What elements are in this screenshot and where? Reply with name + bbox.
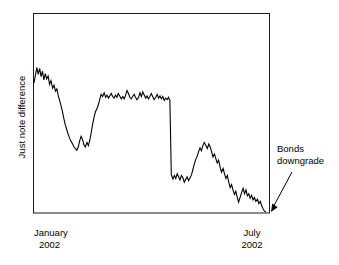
xtick-right-line1: July <box>244 227 261 238</box>
chart-figure: Bonds downgrade January 2002 July 2002 J… <box>0 0 339 265</box>
xtick-right-line2: 2002 <box>241 239 262 250</box>
y-axis-label: Just note difference <box>16 76 27 159</box>
annotation-bonds-line2: downgrade <box>277 155 324 166</box>
plot-frame <box>34 14 270 214</box>
annotation-bonds-line1: Bonds <box>277 143 304 154</box>
bonds-downgrade-arrow-icon <box>271 172 292 212</box>
chart-canvas: Bonds downgrade January 2002 July 2002 J… <box>0 0 339 265</box>
xtick-left-line2: 2002 <box>39 239 60 250</box>
xtick-left-line1: January <box>34 227 68 238</box>
